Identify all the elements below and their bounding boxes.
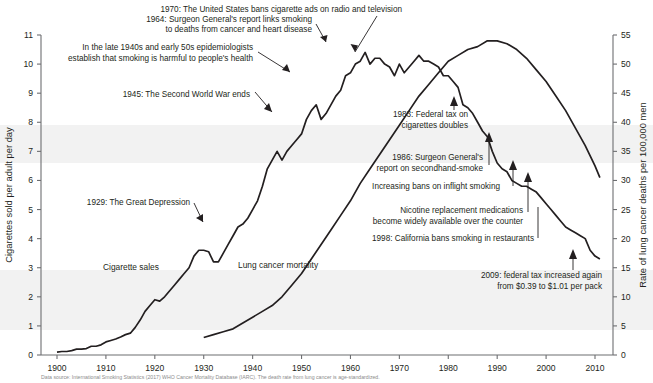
right-tick-label: 25 [621,205,631,215]
right-tick-label: 15 [621,263,631,273]
right-tick-label: 55 [621,30,631,40]
x-tick-label: 2010 [585,363,604,373]
right-tick-label: 35 [621,146,631,156]
annotation-1998-label: 1998: California bans smoking in restaur… [372,234,534,243]
left-tick-label: 1 [28,321,33,331]
right-tick-label: 20 [621,234,631,244]
right-tick-label: 0 [621,350,626,360]
annotation-1964-line2: to deaths from cancer and heart disease [165,25,312,34]
annotation-1970-line1: 1970: The United States bans cigarette a… [160,5,402,14]
x-tick-label: 1940 [243,363,262,373]
left-tick-label: 11 [24,30,33,40]
x-tick-label: 1930 [194,363,213,373]
left-tick-label: 2 [28,292,33,302]
chart-figure: 01234567891011 0510152025303540455055 19… [0,0,653,383]
annotation-late1940s-line1: In the late 1940s and early 50s epidemio… [82,43,253,52]
left-axis-title: Cigarettes sold per adult per day [3,127,14,263]
x-tick-label: 1990 [488,363,507,373]
right-tick-label: 30 [621,175,631,185]
x-tick-label: 1960 [341,363,360,373]
chart-svg: 01234567891011 0510152025303540455055 19… [0,0,653,383]
right-tick-label: 45 [621,88,631,98]
left-tick-label: 8 [28,117,33,127]
series-label-lung-cancer: Lung cancer mortality [238,260,319,270]
left-tick-label: 6 [28,175,33,185]
source-caption: Data source: International Smoking Stati… [41,374,380,380]
series-label-cigarette-sales: Cigarette sales [103,262,159,272]
left-tick-label: 0 [28,350,33,360]
left-tick-label: 7 [28,146,33,156]
annotation-1986-line1: 1986: Surgeon General's [392,153,483,162]
left-tick-label: 10 [23,59,33,69]
x-tick-label: 2000 [537,363,556,373]
annotation-1986-line2: report on secondhand-smoke [376,164,483,173]
annotation-nicotine-line2: become widely available over the counter [373,217,523,226]
right-axis-title: Rate of lung cancer deaths per 100,000 m… [637,102,648,288]
annotation-1983-line1: 1983: Federal tax on [393,110,469,119]
annotation-1945-label: 1945: The Second World War ends [123,90,250,99]
left-tick-label: 9 [28,88,33,98]
right-tick-label: 5 [621,321,626,331]
x-tick-label: 1910 [96,363,115,373]
left-tick-label: 3 [28,263,33,273]
x-tick-label: 1900 [47,363,66,373]
annotation-inflight-label: Increasing bans on inflight smoking [372,182,500,191]
annotation-1929-label: 1929: The Great Depression [87,198,191,207]
annotation-2009-line1: 2009: federal tax increased again [481,271,603,280]
annotation-nicotine-line1: Nicotine replacement medications [400,206,523,215]
right-tick-label: 40 [621,117,631,127]
x-tick-label: 1970 [390,363,409,373]
annotation-late1940s-line2: establish that smoking is harmful to peo… [68,54,253,63]
left-tick-label: 4 [28,234,33,244]
right-tick-label: 10 [621,292,631,302]
right-tick-label: 50 [621,59,631,69]
x-tick-label: 1980 [439,363,458,373]
annotation-1964-line1: 1964: Surgeon General's report links smo… [146,15,312,24]
annotation-1983-line2: cigarettes doubles [402,121,468,130]
x-tick-label: 1920 [145,363,164,373]
left-tick-label: 5 [28,205,33,215]
watermark-band-upper [0,125,653,163]
annotation-2009-line2: from $0.39 to $1.01 per pack [497,282,603,291]
x-tick-label: 1950 [292,363,311,373]
